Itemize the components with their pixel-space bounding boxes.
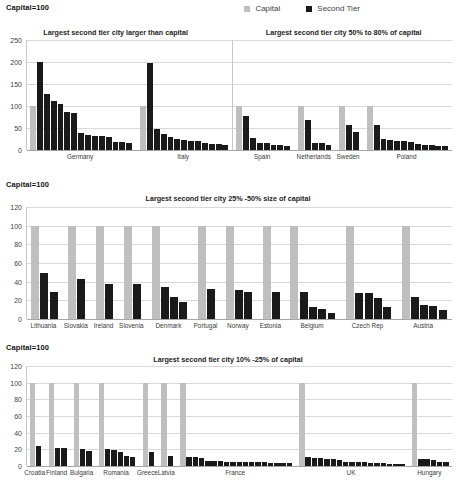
- x-axis-label-czech-rep: Czech Rep: [352, 322, 384, 329]
- y-axis-label-80: 80: [0, 396, 22, 403]
- legend-swatch-second_tier: [306, 6, 312, 12]
- bar-second-tier-hungary-3: [437, 462, 442, 466]
- y-axis-label-20: 20: [0, 297, 22, 304]
- bars-layer-2: [27, 366, 452, 466]
- bar-second-tier-poland-6: [415, 144, 421, 150]
- bar-second-tier-poland-3: [394, 141, 400, 150]
- bar-second-tier-hungary-0: [418, 459, 423, 466]
- legend-label-second_tier: Second Tier: [317, 4, 360, 13]
- y-axis-label-100: 100: [0, 222, 22, 229]
- y-axis-label-40: 40: [0, 429, 22, 436]
- plot-area-2: [26, 366, 452, 466]
- x-axis-label-norway: Norway: [227, 322, 249, 329]
- y-axis-label-100: 100: [0, 103, 22, 110]
- y-axis-label-100: 100: [0, 379, 22, 386]
- x-axis-label-bulgaria: Bulgaria: [70, 469, 93, 476]
- y-axis-label-0: 0: [0, 147, 22, 154]
- bar-second-tier-austria-2: [429, 306, 437, 319]
- panel-section-divider: [232, 40, 233, 150]
- x-axis-label-germany: Germany: [67, 153, 93, 160]
- chart-panel-0: Capital=100CapitalSecond Tier05010015020…: [0, 0, 456, 175]
- gridline-0: [27, 466, 452, 467]
- legend-item-second_tier: Second Tier: [306, 4, 360, 13]
- bar-second-tier-poland-7: [422, 145, 428, 150]
- x-axis-label-ireland: Ireland: [94, 322, 114, 329]
- y-axis-label-80: 80: [0, 241, 22, 248]
- y-axis-label-0: 0: [0, 463, 22, 470]
- gridline-0: [27, 319, 452, 320]
- x-axis-label-finland: Finland: [46, 469, 67, 476]
- bar-capital-hungary: [412, 383, 417, 466]
- panel-subtitle-0-right: Largest second tier city 50% to 80% of c…: [231, 28, 456, 37]
- x-axis-label-lithuania: Lithuania: [30, 322, 56, 329]
- chart-panel-2: Capital=100020406080100120Largest second…: [0, 340, 456, 488]
- bar-second-tier-poland-9: [435, 146, 441, 150]
- x-axis-label-poland: Poland: [397, 153, 417, 160]
- bar-group-hungary: [27, 366, 453, 466]
- capital-base-note: Capital=100: [6, 343, 49, 352]
- panel-title-1: Largest second tier city 25% -50% size o…: [0, 194, 456, 203]
- y-axis-label-60: 60: [0, 413, 22, 420]
- y-axis-label-60: 60: [0, 260, 22, 267]
- chart-panel-1: Capital=100020406080100120Largest second…: [0, 175, 456, 340]
- y-axis-label-150: 150: [0, 81, 22, 88]
- bar-group-poland: [27, 40, 453, 150]
- x-axis-label-slovenia: Slovenia: [119, 322, 144, 329]
- y-axis-label-200: 200: [0, 59, 22, 66]
- capital-base-note: Capital=100: [6, 3, 49, 12]
- bar-second-tier-poland-0: [374, 125, 380, 150]
- x-axis-label-greece: Greece: [137, 469, 158, 476]
- bar-second-tier-poland-4: [401, 141, 407, 150]
- x-axis-label-sweden: Sweden: [337, 153, 360, 160]
- bar-second-tier-austria-3: [439, 310, 447, 319]
- x-axis-label-slovakia: Slovakia: [64, 322, 88, 329]
- bar-second-tier-poland-8: [429, 145, 435, 150]
- x-axis-label-estonia: Estonia: [260, 322, 281, 329]
- x-axis-label-belgium: Belgium: [300, 322, 323, 329]
- y-axis-label-0: 0: [0, 316, 22, 323]
- bar-second-tier-austria-1: [420, 305, 428, 319]
- bar-second-tier-poland-2: [387, 140, 393, 150]
- gridline-0: [27, 150, 452, 151]
- panel-title-2: Largest second tier city 10% -25% of cap…: [0, 355, 456, 364]
- x-axis-label-portugal: Portugal: [194, 322, 218, 329]
- bar-capital-poland: [367, 106, 373, 150]
- x-axis-label-france: France: [225, 469, 245, 476]
- y-axis-label-20: 20: [0, 446, 22, 453]
- panel-subtitle-0-left: Largest second tier city larger than cap…: [0, 28, 231, 37]
- legend-label-capital: Capital: [255, 4, 280, 13]
- x-axis-label-hungary: Hungary: [417, 469, 441, 476]
- bar-capital-austria: [402, 226, 410, 319]
- x-axis-label-denmark: Denmark: [155, 322, 181, 329]
- y-axis-label-50: 50: [0, 125, 22, 132]
- bar-second-tier-poland-5: [408, 142, 414, 150]
- bar-second-tier-poland-10: [442, 146, 448, 150]
- bar-second-tier-hungary-1: [424, 459, 429, 466]
- bars-layer-1: [27, 207, 452, 319]
- bars-layer-0: [27, 40, 452, 150]
- plot-area-1: [26, 207, 452, 319]
- capital-base-note: Capital=100: [6, 180, 49, 189]
- chart-legend: CapitalSecond Tier: [244, 4, 360, 13]
- legend-item-capital: Capital: [244, 4, 280, 13]
- bar-second-tier-hungary-2: [431, 460, 436, 466]
- y-axis-label-120: 120: [0, 204, 22, 211]
- y-axis-label-250: 250: [0, 37, 22, 44]
- x-axis-label-italy: Italy: [177, 153, 189, 160]
- bar-second-tier-austria-0: [411, 297, 419, 319]
- x-axis-label-uk: UK: [347, 469, 356, 476]
- bar-second-tier-hungary-4: [443, 462, 448, 466]
- y-axis-label-40: 40: [0, 278, 22, 285]
- bar-group-austria: [27, 207, 453, 319]
- x-axis-label-croatia: Croatia: [24, 469, 45, 476]
- x-axis-label-netherlands: Netherlands: [297, 153, 331, 160]
- x-axis-label-latvia: Latvia: [158, 469, 175, 476]
- x-axis-label-romania: Romania: [103, 469, 129, 476]
- legend-swatch-capital: [244, 6, 250, 12]
- plot-area-0: [26, 40, 452, 150]
- x-axis-label-spain: Spain: [254, 153, 270, 160]
- bar-second-tier-poland-1: [381, 139, 387, 150]
- x-axis-label-austria: Austria: [413, 322, 433, 329]
